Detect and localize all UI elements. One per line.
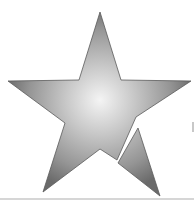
edge-mark: [192, 122, 194, 132]
star-main-icon: [8, 12, 191, 192]
bottom-divider: [0, 198, 194, 200]
star-graphic: [0, 0, 194, 200]
